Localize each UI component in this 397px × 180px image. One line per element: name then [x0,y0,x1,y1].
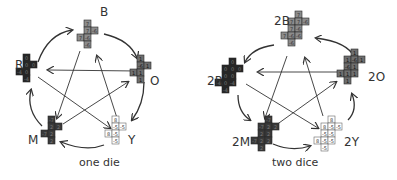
die-face-value: 7 [86,28,89,34]
die-label-2y: 2Y [344,135,359,149]
die-face-value: -6 [138,63,143,69]
arrow-m-beats-r [30,90,42,126]
die-face-value: -6 [296,26,301,32]
die-face-value: 1 [339,71,342,77]
die-face-value: 1 [132,70,135,76]
die-face-value: 2 [267,124,270,130]
die-face-value: -7 [259,124,264,130]
die-label-o: O [150,74,159,88]
arrows-layer [30,30,355,149]
arrow-2m-beats-2o [272,82,336,128]
die-face-value: 0 [32,62,35,68]
die-face-value: 1 [346,78,349,84]
die-face-value: -4 [230,80,235,86]
arrow-2b-beats-2r [245,45,274,62]
die-face-value: 2 [50,138,53,144]
die-face-value: 1 [139,77,142,83]
die-face-value: 7 [86,21,89,27]
die-face-value: -5 [322,131,327,137]
arrow-b-beats-m [57,51,80,118]
arrow-2r-beats-2m [238,95,250,120]
die-face-value: 1 [346,71,349,77]
die-face-value: -6 [85,42,90,48]
die-label-2r: 2R [207,74,223,88]
dice-diagram-canvas: 77-67-6-61-611118-5-58-5-5-722-722000-40… [0,0,397,180]
dice-layer: 77-67-6-61-611118-5-58-5-5-722-722000-40… [16,11,365,151]
die-m: -722-722 [41,116,62,144]
die-face-value: -5 [113,124,118,130]
die-label-2o: 2O [368,70,385,84]
die-face-value: -6 [303,19,308,25]
arrow-r-beats-b [38,30,72,62]
die-face-value: 7 [290,19,293,25]
die-face-value: 7 [297,12,300,18]
die-face-value: -7 [49,117,54,123]
arrow-2y-beats-2o [348,94,354,120]
die-face-value: 1 [346,57,349,63]
die-face-value: -6 [289,33,294,39]
die-face-value: 0 [224,66,227,72]
die-2m: -7-72222-7222 [251,116,279,151]
die-face-value: 2 [267,131,270,137]
die-face-value: -5 [329,124,334,130]
die-face-value: 1 [353,50,356,56]
die-face-value: -6 [85,35,90,41]
die-face-value: 1 [360,57,363,63]
die-face-value: 7 [283,33,286,39]
die-face-value: -6 [296,33,301,39]
die-face-value: 2 [260,145,263,151]
die-face-value: 7 [79,35,82,41]
arrow-o-beats-r [48,70,137,71]
die-face-value: 8 [114,117,117,123]
die-face-value: 2 [274,124,277,130]
die-face-value: -7 [42,131,47,137]
caption-two-dice: two dice [272,156,318,169]
die-face-value: 8 [316,138,319,144]
die-face-value: 1 [139,56,142,62]
die-face-value: 2 [50,124,53,130]
die-face-value: 1 [353,64,356,70]
die-face-value: 8 [107,131,110,137]
die-face-value: 7 [290,26,293,32]
die-label-y: Y [128,133,135,147]
die-face-value: 0 [25,62,28,68]
die-face-value: 0 [238,66,241,72]
nontransitive-dice-figure: 77-67-6-61-611118-5-58-5-5-722-722000-40… [0,0,397,180]
die-face-value: 0 [224,80,227,86]
die-label-2b: 2B [274,14,290,28]
die-face-value: -7 [252,138,257,144]
die-face-value: 0 [25,55,28,61]
die-face-value: -6 [345,64,350,70]
die-face-value: 2 [50,131,53,137]
die-label-m: M [28,133,38,147]
caption-one-die: one die [79,156,120,169]
arrow-b-beats-o [104,34,137,58]
die-face-value: -6 [289,40,294,46]
die-o: 1-61111 [130,55,151,83]
die-face-value: 0 [231,66,234,72]
die-face-value: 0 [231,73,234,79]
die-face-value: -5 [113,131,118,137]
die-face-value: 1 [139,70,142,76]
arrow-2y-beats-2b [305,58,323,116]
arrow-2m-beats-2y [273,144,310,149]
die-face-value: 2 [267,138,270,144]
die-face-value: -6 [92,28,97,34]
die-face-value: -5 [120,124,125,130]
die-face-value: 8 [323,124,326,130]
die-face-value: -7 [266,117,271,123]
arrow-2r-beats-2y [246,84,318,128]
die-face-value: 0 [224,73,227,79]
die-face-value: -5 [329,131,334,137]
die-2y: 88-5-5-5-58-5-5-5 [314,116,342,151]
die-face-value: -5 [322,138,327,144]
arrow-y-beats-b [97,56,117,118]
die-face-value: 1 [146,63,149,69]
die-face-value: 0 [25,69,28,75]
die-face-value: 0 [231,59,234,65]
die-face-value: 8 [330,117,333,123]
die-face-value: 2 [260,131,263,137]
die-label-b: B [100,5,108,19]
arrow-o-beats-y [132,82,144,120]
die-y: 8-5-58-5-5 [105,116,126,144]
